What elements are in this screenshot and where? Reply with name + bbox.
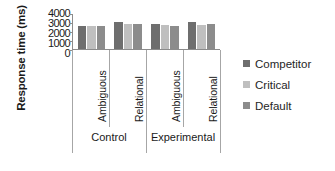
bar-competitor (114, 22, 123, 49)
category-label: Relational (133, 76, 145, 122)
plot-area (72, 14, 220, 50)
category-label: Relational (207, 76, 219, 122)
group-row: ControlExperimental (72, 127, 220, 153)
chart-legend: CompetitorCriticalDefault (243, 53, 333, 116)
bar-chart-figure: Response time (ms) 40003000200010000 Amb… (0, 0, 335, 171)
group-label: Experimental (146, 131, 220, 143)
bar-default (170, 26, 179, 48)
bar-default (207, 24, 216, 49)
group-label: Control (72, 131, 146, 143)
bar-group (110, 14, 147, 49)
category-label: Ambiguous (170, 70, 182, 122)
legend-item: Default (243, 95, 333, 116)
bar-group (147, 14, 184, 49)
bar-critical (161, 25, 170, 49)
bar-competitor (78, 26, 87, 49)
bar-group (183, 14, 220, 49)
bar-critical (87, 26, 96, 49)
y-axis-title: Response time (ms) (15, 0, 27, 124)
legend-label: Competitor (255, 58, 311, 70)
bar-competitor (188, 22, 197, 48)
bar-default (133, 24, 142, 48)
bar-group (73, 14, 110, 49)
legend-item: Critical (243, 74, 333, 95)
legend-swatch-icon (243, 102, 250, 109)
bar-critical (124, 24, 133, 49)
bar-groups (73, 14, 220, 49)
legend-item: Competitor (243, 53, 333, 74)
category-label: Ambiguous (96, 70, 108, 122)
category-axis-area: AmbiguousRelationalAmbiguousRelational C… (72, 50, 220, 153)
legend-label: Default (255, 100, 291, 112)
bar-competitor (151, 24, 160, 49)
y-axis-tick-labels: 40003000200010000 (36, 9, 70, 55)
legend-label: Critical (255, 79, 290, 91)
legend-swatch-icon (243, 60, 250, 67)
legend-swatch-icon (243, 81, 250, 88)
bar-default (97, 26, 106, 49)
bar-critical (197, 25, 206, 49)
